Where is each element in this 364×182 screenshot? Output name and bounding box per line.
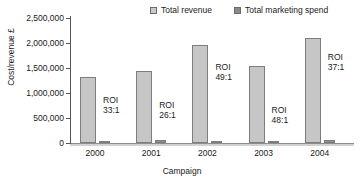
x-axis-tick-label-2004: 2004 (300, 148, 340, 158)
bar-total-marketing-spend-2003 (268, 141, 279, 143)
legend-item-total-revenue: Total revenue (150, 6, 212, 15)
bar-group-2004 (305, 18, 335, 143)
y-axis-tick-label: 2,500,000 (2, 14, 64, 23)
legend-swatch-icon-total-marketing-spend (234, 7, 241, 14)
bar-total-marketing-spend-2002 (211, 141, 222, 143)
y-axis-tick-label: 2,000,000 (2, 39, 64, 48)
bar-chart: Total revenue Total marketing spend Cost… (0, 0, 364, 182)
roi-annotation-value: 37:1 (328, 62, 345, 72)
y-axis-tick (66, 43, 71, 44)
y-axis-tick (66, 18, 71, 19)
y-axis-tick-label: 0 (2, 139, 64, 148)
y-axis-tick-label: 500,000 (2, 114, 64, 123)
roi-annotation-title: ROI (272, 105, 289, 115)
roi-annotation-title: ROI (328, 52, 345, 62)
bar-total-revenue-2000 (80, 77, 96, 143)
bar-total-revenue-2003 (249, 66, 265, 144)
legend-item-total-marketing-spend: Total marketing spend (234, 6, 328, 15)
bar-total-marketing-spend-2000 (99, 141, 110, 143)
legend-swatch-icon-total-revenue (150, 7, 157, 14)
y-axis-tick-label: 1,500,000 (2, 64, 64, 73)
x-axis-tick-label-2000: 2000 (75, 148, 115, 158)
roi-annotation-title: ROI (159, 100, 176, 110)
x-axis-baseline-shadow (70, 144, 354, 146)
chart-legend: Total revenue Total marketing spend (150, 6, 328, 15)
roi-annotation-2004: ROI37:1 (328, 52, 345, 72)
x-axis-tick-label-2003: 2003 (244, 148, 284, 158)
bar-group-2000 (80, 18, 110, 143)
y-axis-tick-labels: 0500,0001,000,0001,500,0002,000,0002,500… (0, 0, 64, 182)
roi-annotation-2000: ROI33:1 (103, 95, 120, 115)
x-axis-tick-label-2001: 2001 (131, 148, 171, 158)
bar-total-revenue-2004 (305, 38, 321, 143)
legend-label-total-revenue: Total revenue (161, 6, 212, 15)
roi-annotation-2002: ROI49:1 (215, 62, 232, 82)
roi-annotation-title: ROI (103, 95, 120, 105)
y-axis-tick (66, 118, 71, 119)
roi-annotation-2003: ROI48:1 (272, 105, 289, 125)
x-axis-tick-label-2002: 2002 (187, 148, 227, 158)
bar-group-2001 (136, 18, 166, 143)
roi-annotation-value: 49:1 (215, 72, 232, 82)
x-axis-line (70, 143, 354, 144)
y-axis-tick (66, 143, 71, 144)
roi-annotation-2001: ROI26:1 (159, 100, 176, 120)
roi-annotation-title: ROI (215, 62, 232, 72)
y-axis-tick-label: 1,000,000 (2, 89, 64, 98)
roi-annotation-value: 33:1 (103, 105, 120, 115)
plot-area (71, 18, 352, 143)
bar-total-marketing-spend-2001 (155, 140, 166, 143)
bar-total-revenue-2001 (136, 71, 152, 143)
legend-label-total-marketing-spend: Total marketing spend (245, 6, 328, 15)
roi-annotation-value: 48:1 (272, 115, 289, 125)
x-axis-title: Campaign (0, 166, 364, 176)
bar-total-revenue-2002 (192, 45, 208, 143)
bar-total-marketing-spend-2004 (324, 140, 335, 143)
y-axis-tick (66, 68, 71, 69)
y-axis-tick (66, 93, 71, 94)
roi-annotation-value: 26:1 (159, 110, 176, 120)
